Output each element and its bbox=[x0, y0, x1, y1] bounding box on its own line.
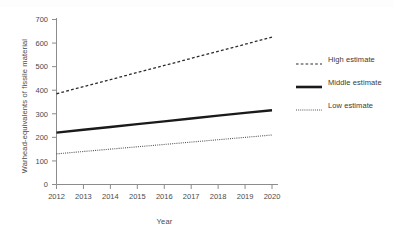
y-axis-ticks: 0100200300400500600700 bbox=[35, 15, 56, 189]
x-tick-label: 2019 bbox=[237, 192, 254, 201]
y-tick-label: 600 bbox=[35, 39, 48, 48]
y-tick-label: 100 bbox=[35, 157, 48, 166]
series-line bbox=[57, 135, 273, 154]
y-tick-label: 200 bbox=[35, 133, 48, 142]
series-line bbox=[57, 110, 273, 132]
x-axis-title: Year bbox=[52, 210, 277, 228]
y-tick-label: 0 bbox=[44, 180, 48, 189]
legend-item-low[interactable]: Low estimate bbox=[296, 94, 394, 117]
x-tick-label: 2018 bbox=[210, 192, 227, 201]
x-tick-label: 2012 bbox=[48, 192, 65, 201]
x-tick-label: 2014 bbox=[102, 192, 119, 201]
legend-item-high[interactable]: High estimate bbox=[296, 48, 394, 71]
y-tick-label: 700 bbox=[35, 15, 48, 24]
legend-item-middle[interactable]: Middle estimate bbox=[296, 71, 394, 94]
chart-legend: High estimate Middle estimate Low estima… bbox=[296, 48, 394, 117]
x-axis-ticks: 201220132014201520162017201820192020 bbox=[48, 185, 280, 202]
x-tick-label: 2020 bbox=[264, 192, 281, 201]
y-axis-title: Warhead-equivalents of fissile material bbox=[13, 21, 31, 191]
legend-label-low: Low estimate bbox=[328, 101, 373, 110]
series-line bbox=[57, 37, 273, 94]
y-axis-title-text: Warhead-equivalents of fissile material bbox=[20, 39, 29, 173]
legend-swatch-dotted-icon bbox=[296, 101, 322, 111]
y-tick-label: 500 bbox=[35, 62, 48, 71]
legend-label-high: High estimate bbox=[328, 55, 375, 64]
y-tick-label: 300 bbox=[35, 110, 48, 119]
data-series-group bbox=[57, 37, 273, 154]
x-tick-label: 2017 bbox=[183, 192, 200, 201]
x-tick-label: 2013 bbox=[75, 192, 92, 201]
chart-figure: 0100200300400500600700 20122013201420152… bbox=[0, 0, 394, 229]
legend-swatch-solid-icon bbox=[296, 78, 322, 88]
x-tick-label: 2015 bbox=[129, 192, 146, 201]
x-axis-title-text: Year bbox=[157, 217, 173, 226]
y-tick-label: 400 bbox=[35, 86, 48, 95]
legend-swatch-dashed-icon bbox=[296, 55, 322, 65]
legend-label-middle: Middle estimate bbox=[328, 78, 382, 87]
x-tick-label: 2016 bbox=[156, 192, 173, 201]
